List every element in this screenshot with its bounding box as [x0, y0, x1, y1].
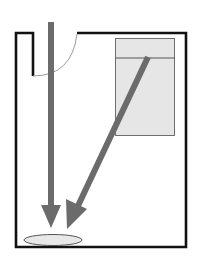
vertical-arrowhead	[41, 205, 61, 228]
vertical-arrow-shaft	[48, 22, 54, 208]
vertical-arrow	[41, 22, 61, 228]
cabinet-body	[116, 39, 175, 136]
diagonal-arrow	[66, 57, 148, 229]
cabinet	[116, 39, 175, 136]
floor-spot-ellipse	[24, 235, 82, 246]
floor-plan-diagram	[0, 0, 198, 261]
door-swing-arc	[33, 34, 77, 76]
